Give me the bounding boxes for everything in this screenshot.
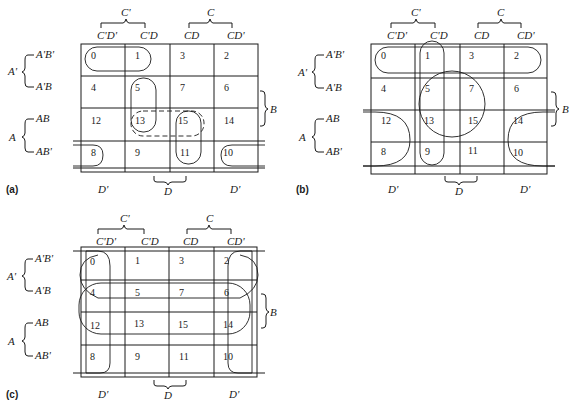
brace-icon (312, 55, 324, 88)
panel-b: C'D' C'D CD CD' C' C A'B' A'B AB AB' A' … (296, 6, 569, 197)
brace-icon (187, 225, 231, 234)
group-label: B (562, 103, 569, 115)
bottom-label: D (454, 185, 463, 197)
brace-icon (22, 119, 34, 152)
svg-text:13: 13 (135, 115, 145, 126)
grouping-loop-wrap (73, 145, 103, 166)
brace-icon (391, 19, 435, 28)
group-label: A' (297, 66, 308, 78)
svg-text:8: 8 (90, 351, 95, 362)
svg-text:6: 6 (514, 83, 519, 94)
svg-text:5: 5 (135, 82, 140, 93)
panel-label: (c) (6, 389, 18, 400)
svg-text:6: 6 (224, 82, 229, 93)
svg-text:5: 5 (135, 287, 140, 298)
panel-c: C'D' C'D CD CD' C' C A'B' A'B AB AB' A' … (6, 212, 277, 401)
svg-text:7: 7 (180, 82, 185, 93)
row-header: A'B' (325, 48, 345, 60)
bottom-label: D' (97, 183, 109, 195)
row-header: AB (325, 112, 340, 124)
brace-icon (154, 380, 186, 389)
panel-label: (a) (6, 184, 18, 195)
col-header: C'D' (96, 235, 117, 247)
svg-text:2: 2 (514, 50, 519, 61)
svg-text:13: 13 (134, 318, 144, 329)
svg-text:7: 7 (179, 287, 184, 298)
svg-text:2: 2 (224, 50, 229, 61)
svg-text:8: 8 (91, 147, 96, 158)
brace-icon (551, 92, 559, 126)
brace-icon (312, 119, 324, 152)
group-label: C (497, 6, 505, 18)
brace-icon (260, 91, 268, 126)
group-label: A' (6, 270, 17, 282)
col-header: C'D' (387, 29, 408, 41)
row-header: A'B (325, 81, 342, 93)
svg-text:15: 15 (178, 115, 188, 126)
bottom-label: D' (97, 388, 109, 400)
group-label: B (270, 103, 277, 115)
brace-icon (261, 294, 269, 328)
grouping-loop (420, 41, 444, 165)
svg-text:9: 9 (135, 351, 140, 362)
svg-text:7: 7 (469, 83, 474, 94)
col-header: CD' (517, 29, 535, 41)
col-header: C'D' (97, 29, 118, 41)
group-label: A (298, 131, 306, 143)
brace-icon (22, 259, 33, 291)
brace-icon (154, 176, 186, 185)
svg-text:1: 1 (425, 50, 430, 61)
brace-icon (445, 176, 477, 185)
svg-text:0: 0 (381, 50, 386, 61)
row-header: A'B (34, 284, 51, 296)
panel-a: C'D' C'D CD CD' C' C A'B' A'B AB AB' A' … (6, 6, 277, 197)
group-label: C (206, 212, 214, 224)
brace-icon (478, 19, 521, 28)
bottom-label: D (163, 185, 172, 197)
group-label: A' (7, 65, 18, 77)
svg-text:11: 11 (180, 147, 190, 158)
svg-text:3: 3 (179, 255, 184, 266)
svg-text:3: 3 (180, 50, 185, 61)
cell-numbers: 0 1 3 2 4 5 7 6 12 13 15 14 8 9 11 10 (90, 255, 233, 362)
svg-text:14: 14 (224, 115, 234, 126)
col-header: C'D (141, 235, 159, 247)
svg-text:1: 1 (135, 255, 140, 266)
brace-icon (22, 323, 33, 356)
svg-text:8: 8 (381, 146, 386, 157)
svg-text:4: 4 (91, 82, 96, 93)
grouping-loop-circle (419, 71, 485, 137)
row-header: AB (34, 316, 49, 328)
group-label: A (7, 335, 15, 347)
svg-text:9: 9 (135, 147, 140, 158)
col-header: CD (183, 235, 198, 247)
row-header: A'B' (35, 48, 55, 60)
row-header: AB' (34, 349, 51, 361)
group-label: C' (121, 6, 131, 18)
brace-icon (22, 55, 34, 87)
bottom-label: D' (519, 183, 531, 195)
brace-icon (101, 19, 145, 28)
svg-text:4: 4 (381, 83, 386, 94)
brace-icon (189, 19, 232, 28)
panel-label: (b) (296, 184, 309, 195)
row-header: AB' (325, 145, 342, 157)
svg-text:11: 11 (468, 145, 478, 156)
bottom-label: D' (387, 183, 399, 195)
row-header: A'B' (34, 252, 54, 264)
bottom-label: D (163, 389, 172, 401)
row-header: A'B (35, 80, 52, 92)
karnaugh-map-figure: C'D' C'D CD CD' C' C A'B' A'B AB AB' A' … (0, 0, 580, 409)
svg-text:15: 15 (178, 319, 188, 330)
svg-text:10: 10 (513, 147, 523, 158)
col-header: CD' (227, 235, 245, 247)
row-header: AB (35, 112, 50, 124)
col-header: C'D (140, 29, 158, 41)
group-label: C' (120, 212, 130, 224)
group-label: C' (411, 6, 421, 18)
svg-text:1: 1 (135, 50, 140, 61)
svg-text:0: 0 (90, 256, 95, 267)
col-header: CD (474, 29, 489, 41)
col-header: C'D (430, 29, 448, 41)
group-label: A (8, 131, 16, 143)
